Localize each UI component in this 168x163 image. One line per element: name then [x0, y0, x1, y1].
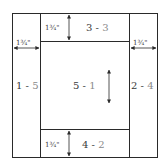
piece-bottom-label: 4 - 2	[82, 139, 105, 150]
bottom-dimension-label: 1¾"	[45, 141, 59, 149]
frame-diagram: 1¾" 3 - 3 1¾" 1¾" 1 - 5 2 - 4 5 - 1 1¾" …	[0, 0, 168, 163]
right-dimension-label: 1¾"	[133, 39, 147, 47]
piece-left-label: 1 - 5	[16, 80, 39, 91]
top-dimension-label: 1¾"	[45, 24, 59, 32]
left-dimension-label: 1¾"	[16, 39, 30, 47]
piece-center-label: 5 - 1	[73, 80, 96, 91]
piece-right-label: 2 - 4	[131, 80, 154, 91]
piece-top-label: 3 - 3	[86, 22, 109, 33]
